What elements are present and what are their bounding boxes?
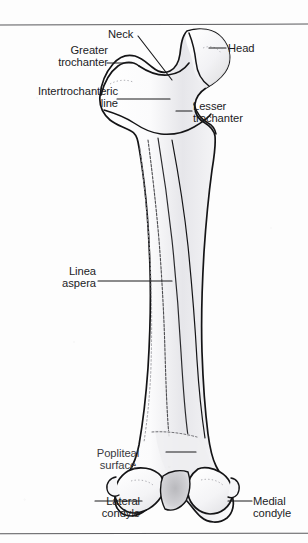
label-greater-trochanter: Greater trochanter [58,44,108,69]
label-lesser-trochanter: Lesser trochanter [193,100,243,125]
medial-condyle [187,468,232,514]
intercondylar-notch [161,471,190,511]
label-intertrochanteric-line: Intertrochanteric line [38,85,118,110]
label-neck: Neck [108,28,133,40]
label-popliteal-surface: Popliteal surface [76,447,160,472]
label-linea-aspera: Linea aspera [62,265,96,290]
label-lateral-condyle: Lateral condyle [102,495,140,520]
figure-page: Greater trochanter Intertrochanteric lin… [0,0,308,543]
lateral-epicondyle [107,477,119,496]
label-medial-condyle: Medial condyle [253,495,291,520]
label-head: Head [228,42,255,54]
